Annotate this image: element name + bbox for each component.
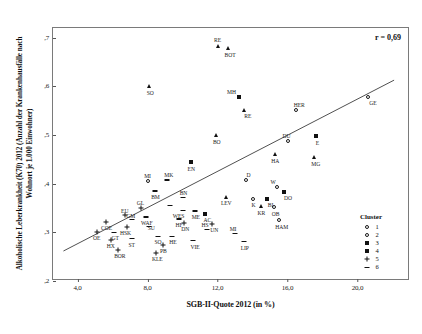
data-point [294,108,298,112]
data-point-label: ST [129,242,135,248]
y-tick-label: ,5 [44,131,53,139]
data-point-label: OB [272,211,280,217]
data-point-label: BO [213,139,221,145]
data-point [244,178,248,182]
data-point [94,229,99,234]
data-point [103,219,108,224]
data-point-label: SU [148,225,155,231]
data-point [226,46,230,50]
data-point [164,178,169,182]
data-point-label: D [247,172,251,178]
data-point [152,189,157,193]
data-point [143,215,148,219]
legend-entries: 123456 [342,223,400,271]
data-point [259,204,263,208]
data-point [286,139,290,143]
y-tick-label: ,3 [44,228,53,236]
data-point-label: E [316,140,319,146]
x-tick-label: 12,0 [212,279,223,292]
data-point-label: MI [230,226,237,232]
legend-marker-icon [363,239,371,247]
legend-marker-glyph [365,233,369,237]
legend-marker-glyph [365,241,369,245]
data-point [242,108,246,112]
legend-entry-label: 5 [375,256,378,263]
correlation-annotation: r = 0,69 [375,33,401,42]
plot-area: r = 0,69 REBOTSOMHREHERBOGEDUEHAMGENMIMK… [52,27,409,280]
data-point-label: UN [210,227,218,233]
data-point [189,160,193,164]
data-point [108,237,113,242]
data-point [265,197,269,201]
data-point-label: BOT [225,52,236,58]
data-point [241,240,246,244]
y-tick-label: ,7 [44,34,53,42]
legend-marker-glyph [365,265,370,269]
legend-entry-label: 2 [375,232,378,239]
data-point-label: SO [147,90,154,96]
x-tick-label: 20,0 [352,279,363,292]
data-point [224,195,228,199]
data-point [170,234,175,238]
x-tick-label: 16,0 [282,279,293,292]
legend-marker-icon [363,223,371,231]
data-point [272,205,276,209]
legend-entry: 2 [342,231,400,239]
data-point-label: W [270,179,275,185]
data-point-label: MH [227,89,236,95]
legend-marker-glyph [365,249,369,253]
data-point-label: BOR [114,253,125,259]
data-point [314,134,318,138]
data-point [366,95,370,99]
legend-marker-glyph [365,225,369,229]
x-axis-label: SGB-II-Quote 2012 (in %) [52,300,409,309]
data-point-label: HA [271,158,279,164]
legend-entry: 5 [342,255,400,263]
data-point-label: PB [160,248,167,254]
legend-entry: 3 [342,239,400,247]
data-point [182,220,187,225]
scatter-plot-figure: Alkoholische Leberkrankheit (K70) 2012 (… [0,0,422,334]
legend-entry: 4 [342,247,400,255]
data-point-label: MI [144,173,151,179]
legend-marker-glyph [365,257,370,262]
data-point-label: LIP [241,245,249,251]
data-point [168,204,173,208]
data-point [214,133,218,137]
data-point [129,237,134,241]
data-point [146,179,150,183]
data-point [154,250,159,255]
legend-entry-label: 4 [375,248,378,255]
legend-entry-label: 3 [375,240,378,247]
data-point-label: OE [93,235,100,241]
legend-marker-icon [363,263,371,271]
data-point [273,152,277,156]
data-point [275,185,279,189]
legend-title: Cluster [342,213,400,221]
data-point [192,209,197,213]
data-point-label: HSK [120,230,131,236]
data-point-label: HS [202,222,209,228]
data-point [216,44,220,48]
data-point-label: COE [101,225,112,231]
data-point-label: RE [214,37,221,43]
data-point [251,197,255,201]
legend-entry-label: 6 [375,264,378,271]
legend-marker-icon [363,247,371,255]
data-point-label: BM [151,194,160,200]
data-point-label: RE [244,113,251,119]
data-point [138,206,143,211]
data-point-label: HE [169,239,176,245]
data-point-label: BN [180,190,188,196]
data-point [312,155,316,159]
data-point-label: K [252,202,256,208]
data-point-label: ME [192,214,200,220]
data-point-label: MG [311,161,320,167]
data-point [124,224,129,229]
data-point-label: MK [164,172,173,178]
data-point-label: HAM [275,224,288,230]
data-point-label: DU [283,133,291,139]
data-point [147,84,151,88]
data-point-label: GM [126,213,135,219]
data-point-label: EN [188,166,195,172]
